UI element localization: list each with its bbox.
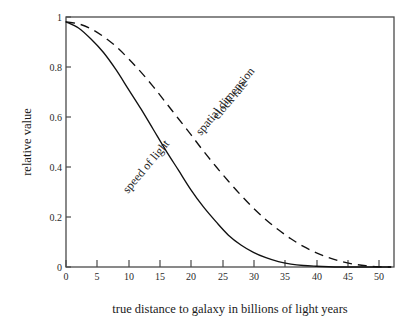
y-tick-label: 1 bbox=[57, 12, 62, 23]
y-axis-title: relative value bbox=[20, 108, 34, 176]
x-tick-label: 35 bbox=[280, 271, 290, 282]
curve-speed-of-light bbox=[66, 22, 391, 267]
label-speed-of-light: speed of light bbox=[120, 136, 173, 196]
x-tick-label: 50 bbox=[374, 271, 384, 282]
chart-page: 1 0.8 0.6 0.4 0.2 0 0 5 10 15 2 bbox=[0, 0, 419, 326]
y-tick-label: 0.2 bbox=[50, 212, 63, 223]
x-tick-label: 30 bbox=[249, 271, 259, 282]
x-tick-label: 45 bbox=[343, 271, 353, 282]
y-tick-label: 0 bbox=[57, 262, 62, 273]
x-axis-ticks bbox=[66, 260, 379, 267]
y-axis-tick-labels: 1 0.8 0.6 0.4 0.2 0 bbox=[50, 12, 63, 273]
x-tick-label: 40 bbox=[312, 271, 322, 282]
x-tick-label: 5 bbox=[95, 271, 100, 282]
curve-clock-rate-spatial-dimension bbox=[66, 22, 391, 267]
plot-frame bbox=[66, 17, 394, 267]
x-tick-label: 10 bbox=[124, 271, 134, 282]
label-spatial-dimension: spatial dimension bbox=[193, 64, 258, 138]
x-tick-label: 20 bbox=[186, 271, 196, 282]
x-axis-tick-labels: 0 5 10 15 20 25 30 35 40 45 50 bbox=[64, 271, 385, 282]
line-chart: 1 0.8 0.6 0.4 0.2 0 0 5 10 15 2 bbox=[0, 0, 419, 326]
y-tick-label: 0.4 bbox=[50, 162, 63, 173]
data-curves bbox=[66, 22, 391, 267]
y-tick-label: 0.8 bbox=[50, 62, 63, 73]
x-tick-label: 0 bbox=[64, 271, 69, 282]
curve-annotations: clock rate spatial dimension speed of li… bbox=[120, 64, 258, 196]
x-axis-title: true distance to galaxy in billions of l… bbox=[112, 302, 347, 316]
x-tick-label: 15 bbox=[155, 271, 165, 282]
y-tick-label: 0.6 bbox=[50, 112, 63, 123]
y-axis-ticks bbox=[66, 17, 71, 267]
x-tick-label: 25 bbox=[218, 271, 228, 282]
